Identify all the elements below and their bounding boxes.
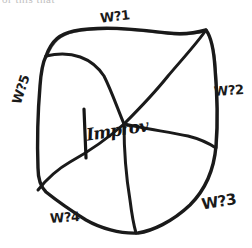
spoke-to-bottom	[124, 124, 136, 233]
sector-label-w4: W?4	[50, 209, 80, 226]
spoke-to-upper-right	[124, 30, 206, 124]
diagram-canvas: or this that Improv W?1 W?2 W?3 W?4 W?5	[0, 0, 252, 248]
sector-label-w2: W?2	[214, 82, 244, 99]
